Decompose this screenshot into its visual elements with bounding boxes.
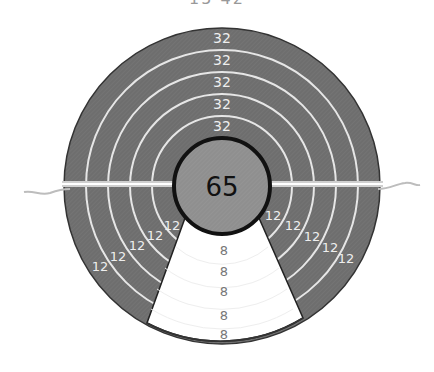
left-score-3: 12 (129, 238, 146, 253)
left-score-2: 12 (147, 228, 164, 243)
top-score-5: 32 (213, 118, 231, 134)
left-score-1: 12 (164, 218, 181, 233)
bottom-wedge-scores: 8 8 8 8 8 (220, 243, 228, 342)
target-board[interactable]: 65 32 32 32 32 32 12 12 12 12 12 12 12 1… (0, 0, 434, 372)
left-score-4: 12 (110, 249, 127, 264)
right-score-1: 12 (265, 208, 282, 223)
top-score-2: 32 (213, 52, 231, 68)
top-ring-scores: 32 32 32 32 32 (213, 30, 231, 134)
wedge-score-3: 8 (220, 284, 228, 299)
wedge-score-5: 8 (220, 327, 228, 342)
right-score-3: 12 (304, 229, 321, 244)
wedge-score-4: 8 (220, 308, 228, 323)
right-score-5: 12 (338, 251, 355, 266)
right-score-4: 12 (322, 240, 339, 255)
wedge-score-2: 8 (220, 264, 228, 279)
wedge-score-1: 8 (220, 243, 228, 258)
top-score-3: 32 (213, 74, 231, 90)
center-score: 65 (205, 172, 238, 202)
top-score-1: 32 (213, 30, 231, 46)
top-score-4: 32 (213, 96, 231, 112)
left-score-5: 12 (92, 259, 109, 274)
right-score-2: 12 (285, 218, 302, 233)
